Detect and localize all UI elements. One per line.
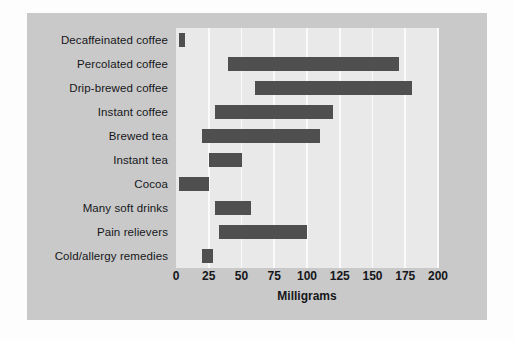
- bar: [255, 81, 412, 95]
- bar: [179, 33, 186, 47]
- bar: [215, 105, 333, 119]
- gridline: [404, 28, 406, 268]
- x-tick-label: 200: [428, 269, 448, 283]
- category-label: Instant coffee: [98, 100, 168, 124]
- bar: [215, 201, 250, 215]
- x-tick-label: 150: [362, 269, 382, 283]
- gridline: [437, 28, 439, 268]
- category-label: Brewed tea: [109, 124, 168, 148]
- x-tick-label: 125: [330, 269, 350, 283]
- category-label: Cold/allergy remedies: [55, 244, 168, 268]
- category-label: Decaffeinated coffee: [61, 28, 168, 52]
- x-axis-title: Milligrams: [176, 289, 438, 303]
- category-label: Instant tea: [113, 148, 168, 172]
- category-label: Drip-brewed coffee: [69, 76, 168, 100]
- chart-panel: Decaffeinated coffeePercolated coffeeDri…: [27, 13, 487, 320]
- category-label: Many soft drinks: [83, 196, 168, 220]
- x-tick-label: 50: [235, 269, 248, 283]
- category-label: Percolated coffee: [77, 52, 168, 76]
- x-tick-label: 75: [268, 269, 281, 283]
- gridline: [208, 28, 210, 268]
- x-axis: 0255075100125150175200: [176, 269, 438, 289]
- category-axis: Decaffeinated coffeePercolated coffeeDri…: [27, 28, 174, 268]
- bar: [209, 153, 242, 167]
- category-label: Cocoa: [134, 172, 168, 196]
- plot-area: [176, 28, 438, 268]
- chart-figure: Decaffeinated coffeePercolated coffeeDri…: [0, 0, 514, 340]
- bar: [219, 225, 307, 239]
- bar: [179, 177, 209, 191]
- x-tick-label: 175: [395, 269, 415, 283]
- x-tick-label: 100: [297, 269, 317, 283]
- bar: [202, 129, 320, 143]
- bar: [202, 249, 212, 263]
- x-tick-label: 25: [202, 269, 215, 283]
- bar: [228, 57, 398, 71]
- category-label: Pain relievers: [97, 220, 168, 244]
- x-tick-label: 0: [173, 269, 180, 283]
